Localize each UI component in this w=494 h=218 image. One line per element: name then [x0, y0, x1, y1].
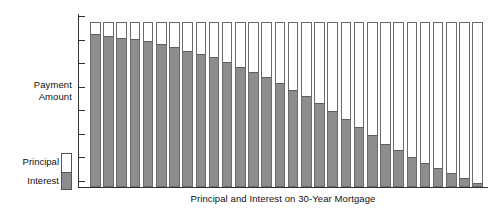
bar-segment-interest — [302, 96, 311, 186]
bar-segment-interest — [223, 62, 232, 186]
bar-segment-interest — [381, 144, 390, 186]
bar-segment-interest — [328, 111, 337, 186]
y-axis-tick — [79, 181, 85, 182]
bar-year-10 — [209, 22, 220, 187]
bar-year-1 — [90, 22, 101, 187]
bar-year-13 — [248, 22, 259, 187]
bar-year-24 — [393, 22, 404, 187]
bar-year-11 — [222, 22, 233, 187]
bar-segment-interest — [210, 57, 219, 186]
y-axis-tick — [79, 110, 85, 111]
bar-year-25 — [407, 22, 418, 187]
bar-segment-interest — [262, 77, 271, 186]
bar-segment-interest — [342, 119, 351, 186]
bar-segment-interest — [117, 38, 126, 186]
chart-caption: Principal and Interest on 30-Year Mortga… — [78, 193, 488, 204]
bar-segment-interest — [368, 135, 377, 186]
bar-segment-interest — [91, 34, 100, 186]
bar-year-22 — [367, 22, 378, 187]
mortgage-amortization-chart: Payment Amount Principal Interest Princi… — [0, 0, 494, 218]
y-axis-tick — [79, 63, 85, 64]
bar-segment-interest — [447, 173, 456, 186]
bar-year-7 — [169, 22, 180, 187]
bar-segment-interest — [144, 41, 153, 186]
y-axis-tick — [79, 16, 85, 17]
bar-segment-interest — [183, 51, 192, 186]
legend-label-principal: Principal — [0, 152, 59, 171]
legend-swatch-interest — [62, 172, 71, 190]
bar-segment-interest — [289, 90, 298, 186]
bar-year-2 — [103, 22, 114, 187]
bar-segment-interest — [473, 183, 482, 186]
y-axis-tick — [79, 40, 85, 41]
y-axis-tick — [79, 134, 85, 135]
bar-year-29 — [459, 22, 470, 187]
legend-swatch-principal — [61, 153, 72, 190]
bar-year-17 — [301, 22, 312, 187]
bar-series-container — [90, 14, 486, 187]
bar-year-15 — [275, 22, 286, 187]
bar-segment-interest — [157, 44, 166, 186]
bar-year-14 — [261, 22, 272, 187]
bar-segment-interest — [355, 127, 364, 186]
bar-year-12 — [235, 22, 246, 187]
y-axis-label-line-2: Amount — [0, 91, 72, 103]
y-axis-tick — [79, 87, 85, 88]
bar-segment-interest — [460, 178, 469, 186]
legend-labels: Principal Interest — [0, 152, 59, 190]
bar-segment-interest — [408, 157, 417, 186]
bar-year-27 — [433, 22, 444, 187]
bar-year-28 — [446, 22, 457, 187]
bar-year-3 — [116, 22, 127, 187]
bar-year-19 — [327, 22, 338, 187]
bar-segment-interest — [249, 72, 258, 186]
bar-year-30 — [472, 22, 483, 187]
bar-year-8 — [182, 22, 193, 187]
y-axis-tick — [79, 157, 85, 158]
bar-year-23 — [380, 22, 391, 187]
bar-year-18 — [314, 22, 325, 187]
bar-year-26 — [420, 22, 431, 187]
legend-label-interest: Interest — [0, 171, 59, 190]
x-axis-spine — [78, 187, 488, 188]
bar-segment-interest — [197, 54, 206, 186]
bar-year-16 — [288, 22, 299, 187]
plot-area — [78, 14, 488, 188]
bar-segment-interest — [236, 67, 245, 186]
bar-segment-interest — [170, 47, 179, 186]
bar-year-9 — [196, 22, 207, 187]
bar-year-6 — [156, 22, 167, 187]
y-axis-label-line-1: Payment — [0, 79, 72, 91]
bar-segment-interest — [276, 83, 285, 186]
chart-legend: Principal Interest — [0, 152, 78, 192]
y-axis-label: Payment Amount — [0, 79, 72, 102]
bar-year-5 — [143, 22, 154, 187]
bar-segment-interest — [421, 163, 430, 186]
bar-segment-interest — [131, 39, 140, 186]
bar-segment-interest — [315, 103, 324, 186]
bar-segment-interest — [104, 36, 113, 186]
bar-segment-interest — [394, 150, 403, 186]
bar-segment-interest — [434, 168, 443, 186]
bar-year-20 — [341, 22, 352, 187]
bar-year-21 — [354, 22, 365, 187]
bar-year-4 — [130, 22, 141, 187]
